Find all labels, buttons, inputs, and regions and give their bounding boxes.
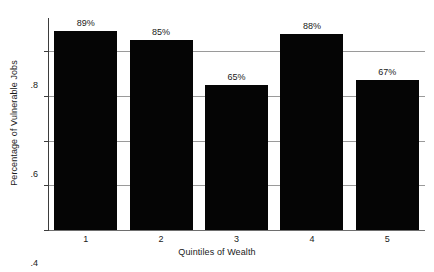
x-axis-spine (48, 230, 425, 231)
x-axis-tick-label: 5 (385, 234, 390, 244)
y-axis-tick-label: .4 (30, 258, 38, 268)
y-axis-tick-mark: .8 (44, 51, 49, 52)
bar: 88% (280, 34, 343, 230)
x-axis-tick-label: 1 (83, 234, 88, 244)
y-axis-tick-mark: 0 (44, 230, 49, 231)
x-axis-tick-label: 2 (159, 234, 164, 244)
bar: 65% (205, 85, 268, 230)
bar-value-label: 67% (378, 67, 396, 77)
bar-chart: Percentage of Vulnerable Jobs 0.2.4.6.8 … (0, 0, 434, 272)
y-axis-tick-label: .8 (30, 80, 38, 90)
bar-value-label: 89% (77, 18, 95, 28)
y-axis-spine (48, 18, 49, 230)
bar-value-label: 65% (227, 72, 245, 82)
y-axis-tick-label: .6 (30, 169, 38, 179)
x-axis-tick-label: 4 (309, 234, 314, 244)
y-axis-title: Percentage of Vulnerable Jobs (9, 23, 19, 223)
bar-value-label: 85% (152, 27, 170, 37)
y-axis-tick-mark: .2 (44, 185, 49, 186)
x-axis-title: Quintiles of Wealth (0, 247, 434, 257)
y-axis-tick-mark: .4 (44, 141, 49, 142)
y-axis-tick-mark: .6 (44, 96, 49, 97)
bar: 89% (54, 31, 117, 230)
bar-value-label: 88% (303, 21, 321, 31)
bar: 67% (356, 80, 419, 230)
bar: 85% (130, 40, 193, 230)
x-axis-tick-label: 3 (234, 234, 239, 244)
plot-area: 0.2.4.6.8 89%85%65%88%67% 12345 (48, 18, 425, 230)
